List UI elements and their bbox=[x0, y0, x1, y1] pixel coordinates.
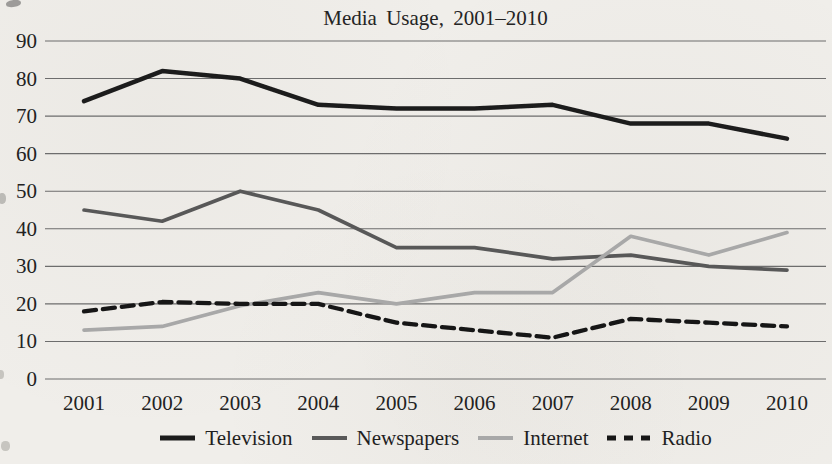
line-chart: 0102030405060708090200120022003200420052… bbox=[0, 0, 832, 464]
x-tick-label-2007: 2007 bbox=[532, 391, 574, 415]
legend-swatch-internet bbox=[477, 432, 514, 444]
legend-label-television: Television bbox=[205, 426, 292, 451]
legend-item-television: Television bbox=[159, 426, 292, 451]
x-tick-label-2006: 2006 bbox=[454, 391, 496, 415]
axes-group: 0102030405060708090200120022003200420052… bbox=[16, 29, 826, 415]
y-tick-label-50: 50 bbox=[16, 179, 37, 203]
scan-smudge bbox=[1, 441, 10, 451]
legend-swatch-radio bbox=[606, 432, 652, 444]
legend-label-internet: Internet bbox=[523, 426, 588, 451]
series-group bbox=[84, 71, 787, 338]
x-tick-label-2001: 2001 bbox=[63, 391, 105, 415]
legend-swatch-newspapers bbox=[311, 432, 348, 444]
x-tick-label-2002: 2002 bbox=[141, 391, 183, 415]
x-tick-label-2009: 2009 bbox=[688, 391, 730, 415]
legend-label-newspapers: Newspapers bbox=[357, 426, 460, 451]
y-tick-label-20: 20 bbox=[16, 292, 37, 316]
x-tick-label-2010: 2010 bbox=[766, 391, 808, 415]
scanned-chart-page: Media Usage, 2001–2010 01020304050607080… bbox=[0, 0, 832, 464]
series-line-television bbox=[84, 71, 787, 139]
y-tick-label-30: 30 bbox=[16, 254, 37, 278]
x-tick-label-2003: 2003 bbox=[219, 391, 261, 415]
x-tick-label-2008: 2008 bbox=[610, 391, 652, 415]
legend-item-newspapers: Newspapers bbox=[311, 426, 460, 451]
y-tick-label-90: 90 bbox=[16, 29, 37, 53]
y-tick-label-70: 70 bbox=[16, 104, 37, 128]
y-tick-label-40: 40 bbox=[16, 217, 37, 241]
legend-item-internet: Internet bbox=[477, 426, 588, 451]
series-line-newspapers bbox=[84, 191, 787, 270]
y-tick-label-60: 60 bbox=[16, 142, 37, 166]
x-tick-label-2005: 2005 bbox=[375, 391, 417, 415]
chart-legend: TelevisionNewspapersInternetRadio bbox=[45, 423, 826, 453]
y-tick-label-10: 10 bbox=[16, 329, 37, 353]
y-tick-label-80: 80 bbox=[16, 67, 37, 91]
legend-label-radio: Radio bbox=[661, 426, 711, 451]
x-tick-label-2004: 2004 bbox=[297, 391, 340, 415]
legend-swatch-television bbox=[159, 432, 196, 444]
y-tick-label-0: 0 bbox=[27, 367, 38, 391]
legend-item-radio: Radio bbox=[606, 426, 711, 451]
